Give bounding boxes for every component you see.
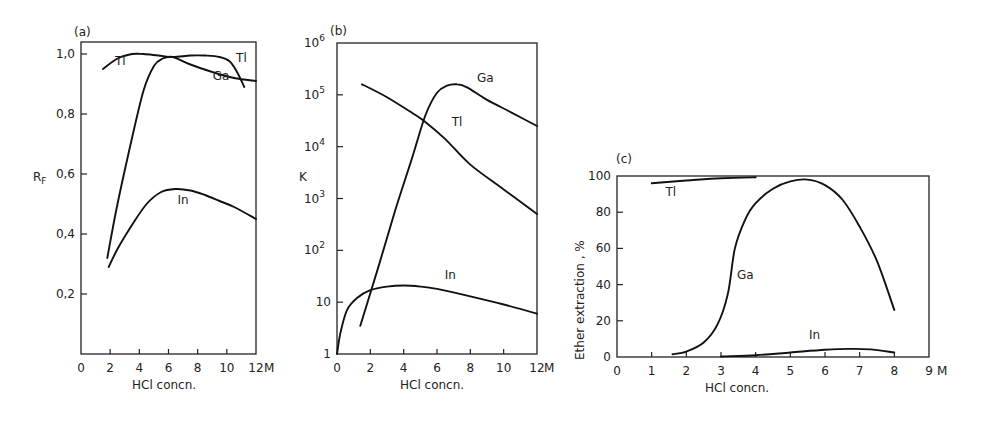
x-tick-label: 6: [433, 361, 441, 375]
x-tick-label: 10: [496, 361, 511, 375]
panel-a-xlabel: HCl concn.: [132, 378, 196, 392]
x-tick-label: 6: [821, 364, 829, 378]
panel-c: (c) 0123456789020406080100 TlGaIn Ether …: [573, 152, 947, 395]
panel-a-ylabel: RF: [33, 170, 47, 186]
panel-a-curves: [103, 54, 256, 267]
panel-b-ylabel: K: [299, 170, 308, 184]
y-tick-label: 105: [304, 85, 325, 102]
panel-a-axes-frame: [81, 42, 256, 354]
x-tick-label: 8: [891, 364, 899, 378]
panel-a-xunit: M: [264, 361, 274, 375]
panel-a-label: (a): [74, 25, 91, 39]
panel-c-axes-frame: [617, 176, 929, 357]
x-tick-label: 9: [925, 364, 933, 378]
series-label: Ga: [737, 268, 754, 282]
y-tick-label: 0,4: [56, 227, 75, 241]
series-in-line: [721, 349, 894, 357]
x-tick-label: 5: [787, 364, 795, 378]
panel-b-axes-frame: [337, 43, 537, 354]
figure-canvas: (a) 0246810120,20,40,60,81,0 TlTlGaIn RF…: [0, 0, 982, 424]
x-tick-label: 6: [165, 361, 173, 375]
x-tick-label: 3: [717, 364, 725, 378]
y-tick-label: 40: [596, 278, 611, 292]
x-tick-label: 8: [467, 361, 475, 375]
panel-b-xlabel: HCl concn.: [400, 378, 464, 392]
panel-c-annotations: TlGaIn: [664, 185, 820, 342]
panel-b-curves: [337, 84, 537, 354]
y-tick-label: 0,6: [56, 167, 75, 181]
y-tick-label: 60: [596, 241, 611, 255]
x-tick-label: 12: [248, 361, 263, 375]
x-tick-label: 0: [333, 361, 341, 375]
y-tick-label: 10: [316, 295, 331, 309]
panel-c-xlabel: HCl concn.: [705, 381, 769, 395]
x-tick-label: 0: [613, 364, 621, 378]
y-tick-label: 1,0: [56, 47, 75, 61]
panel-b-xunit: M: [544, 361, 554, 375]
series-label: Tl: [664, 185, 676, 199]
x-tick-label: 12: [529, 361, 544, 375]
series-tl-line: [652, 177, 756, 183]
series-label: In: [445, 268, 456, 282]
x-tick-label: 2: [683, 364, 691, 378]
series-ga-line: [673, 179, 895, 354]
y-tick-label: 1: [323, 347, 331, 361]
x-tick-label: 7: [856, 364, 864, 378]
panel-b-label: (b): [330, 24, 347, 38]
y-tick-label: 104: [304, 137, 325, 154]
series-tl-line: [362, 84, 537, 214]
y-tick-label: 0,8: [56, 107, 75, 121]
panel-c-label: (c): [616, 152, 632, 166]
series-label: Tl: [114, 54, 126, 68]
series-label: In: [178, 193, 189, 207]
x-tick-label: 10: [219, 361, 234, 375]
y-tick-label: 100: [588, 169, 611, 183]
series-label: Tl: [235, 51, 247, 65]
y-tick-label: 102: [304, 240, 325, 257]
y-tick-label: 0: [603, 350, 611, 364]
y-tick-label: 80: [596, 205, 611, 219]
panel-b: (b) 024681012110102103104105106 GaTlIn K…: [299, 24, 554, 392]
panel-a: (a) 0246810120,20,40,60,81,0 TlTlGaIn RF…: [33, 25, 274, 392]
y-tick-label: 0,2: [56, 287, 75, 301]
x-tick-label: 0: [77, 361, 85, 375]
series-ga-line: [360, 84, 537, 326]
x-tick-label: 2: [367, 361, 375, 375]
panel-b-ticks: 024681012110102103104105106: [304, 33, 545, 375]
y-tick-label: 20: [596, 314, 611, 328]
y-tick-label: 103: [304, 189, 325, 206]
y-tick-label: 106: [304, 33, 325, 50]
series-label: In: [809, 328, 820, 342]
x-tick-label: 8: [194, 361, 202, 375]
series-in-line: [337, 286, 537, 355]
series-label: Ga: [477, 71, 494, 85]
series-label: Ga: [213, 69, 230, 83]
x-tick-label: 4: [400, 361, 408, 375]
panel-a-ticks: 0246810120,20,40,60,81,0: [56, 47, 264, 375]
x-tick-label: 2: [106, 361, 114, 375]
x-tick-label: 4: [136, 361, 144, 375]
panel-c-curves: [652, 177, 895, 356]
series-label: Tl: [451, 115, 463, 129]
panel-c-xunit: M: [937, 364, 947, 378]
panel-c-ylabel: Ether extraction , %: [573, 240, 587, 360]
x-tick-label: 4: [752, 364, 760, 378]
x-tick-label: 1: [648, 364, 656, 378]
